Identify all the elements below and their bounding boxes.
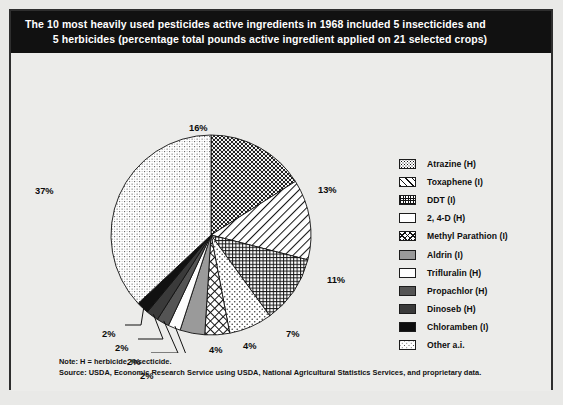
legend-item-dinoseb[interactable]: Dinoseb (H) [399,300,549,318]
pie-label-24d: 7% [286,329,299,339]
legend-swatch-ddt-icon [399,195,416,205]
legend-item-atrazine[interactable]: Atrazine (H) [399,155,549,173]
legend-label-chloramben: Chloramben (I) [427,322,488,332]
legend-item-24d[interactable]: 2, 4-D (H) [399,209,549,227]
legend-label-aldrin: Aldrin (I) [427,250,463,260]
legend-swatch-other-icon [399,340,416,350]
chart-title-line-1: The 10 most heavily used pesticides acti… [25,17,537,32]
legend-label-trifluralin: Trifluralin (H) [427,268,481,278]
legend-item-methyl-parathion[interactable]: Methyl Parathion (I) [399,227,549,245]
legend-item-chloramben[interactable]: Chloramben (I) [399,318,549,336]
footnote-note: Note: H = herbicide, insecticide. [59,357,481,368]
pie-label-other: 37% [35,186,54,196]
pie-leader-line [125,306,144,325]
legend-item-toxaphene[interactable]: Toxaphene (I) [399,173,549,191]
legend-label-dinoseb: Dinoseb (H) [427,304,476,314]
legend-item-other[interactable]: Other a.i. [399,336,549,354]
chart-body: 16% 13% 11% 7% 4% 4% 2% 2% 2% 2% 37% Atr… [11,53,551,391]
chart-title-line-2: 5 herbicides (percentage total pounds ac… [25,32,537,47]
legend-item-aldrin[interactable]: Aldrin (I) [399,245,549,263]
pie-slice-group [111,135,311,335]
pie-label-atrazine: 16% [189,123,208,133]
legend-label-ddt: DDT (I) [427,195,456,205]
footnote-source: Source: USDA, Economic Research Service … [59,368,481,379]
chart-legend: Atrazine (H) Toxaphene (I) DDT (I) 2, 4-… [399,155,549,354]
pie-chart: 16% 13% 11% 7% 4% 4% 2% 2% 2% 2% 37% [11,53,391,353]
legend-swatch-trifluralin-icon [399,268,416,278]
legend-item-propachlor[interactable]: Propachlor (H) [399,282,549,300]
legend-label-atrazine: Atrazine (H) [427,159,476,169]
pie-label-dinoseb: 2% [115,343,128,353]
legend-label-propachlor: Propachlor (H) [427,286,487,296]
legend-item-trifluralin[interactable]: Trifluralin (H) [399,264,549,282]
legend-swatch-24d-icon [399,213,416,223]
legend-swatch-propachlor-icon [399,286,416,296]
chart-footnote: Note: H = herbicide, insecticide. Source… [59,357,481,378]
legend-swatch-atrazine-icon [399,159,416,169]
legend-label-toxaphene: Toxaphene (I) [427,177,483,187]
legend-label-24d: 2, 4-D (H) [427,213,465,223]
pie-label-chloramben: 2% [102,329,115,339]
chart-title-bar: The 10 most heavily used pesticides acti… [11,11,551,53]
pie-chart-svg [11,53,391,353]
legend-swatch-chloramben-icon [399,322,416,332]
legend-label-other: Other a.i. [427,340,465,350]
legend-swatch-methyl-parathion-icon [399,231,416,241]
pie-label-aldrin: 4% [209,345,222,355]
pie-label-toxaphene: 13% [318,185,337,195]
legend-label-methyl-parathion: Methyl Parathion (I) [427,231,508,241]
pie-label-methyl: 4% [243,341,256,351]
chart-panel: The 10 most heavily used pesticides acti… [9,9,553,390]
legend-swatch-aldrin-icon [399,250,416,260]
pie-label-ddt: 11% [327,275,345,285]
legend-item-ddt[interactable]: DDT (I) [399,191,549,209]
legend-swatch-dinoseb-icon [399,304,416,314]
legend-swatch-toxaphene-icon [399,177,416,187]
